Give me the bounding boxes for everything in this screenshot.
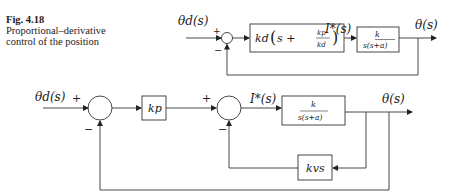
bottom-plant-den: s(s+a) xyxy=(298,113,322,122)
top-diagram xyxy=(186,24,436,75)
top-controller-s: s + xyxy=(277,32,295,45)
bottom-minus-sign-1: − xyxy=(84,123,93,136)
bottom-input-label: θd(s) xyxy=(35,90,66,104)
top-input-label: θd(s) xyxy=(178,14,209,28)
top-output-label: θ(s) xyxy=(415,18,438,32)
bottom-summing-junction-2 xyxy=(217,96,241,120)
bottom-summing-junction-1 xyxy=(88,96,112,120)
top-plant-num: k xyxy=(375,30,380,39)
kvs-label: kvs xyxy=(306,162,325,175)
top-signal-label: I*(s) xyxy=(324,22,352,36)
bottom-signal-label: I*(s) xyxy=(249,92,277,106)
bottom-plus-sign-2: + xyxy=(202,92,211,105)
top-summing-junction xyxy=(222,33,233,44)
top-plant-den: s(s+a) xyxy=(363,41,387,50)
top-controller-den: kd xyxy=(317,41,326,49)
bottom-output-label: θ(s) xyxy=(382,92,405,106)
top-controller-paren-open: ( xyxy=(270,28,276,47)
bottom-minus-sign-2: − xyxy=(218,123,227,136)
bottom-plus-sign-1: + xyxy=(72,92,81,105)
bottom-plant-num: k xyxy=(311,100,316,109)
bottom-diagram xyxy=(43,96,412,190)
inner-feedback-line xyxy=(333,112,366,168)
inner-feedback-return-line xyxy=(229,121,298,168)
outer-feedback-line xyxy=(100,112,389,190)
top-controller-kd: kd xyxy=(255,32,269,45)
top-minus-sign: − xyxy=(214,45,222,56)
block-diagrams: θd(s) + − kd ( s + kp kd ) I*(s) k s(s+a… xyxy=(0,0,449,196)
top-plus-sign: + xyxy=(213,26,221,36)
kp-label: kp xyxy=(148,102,162,115)
